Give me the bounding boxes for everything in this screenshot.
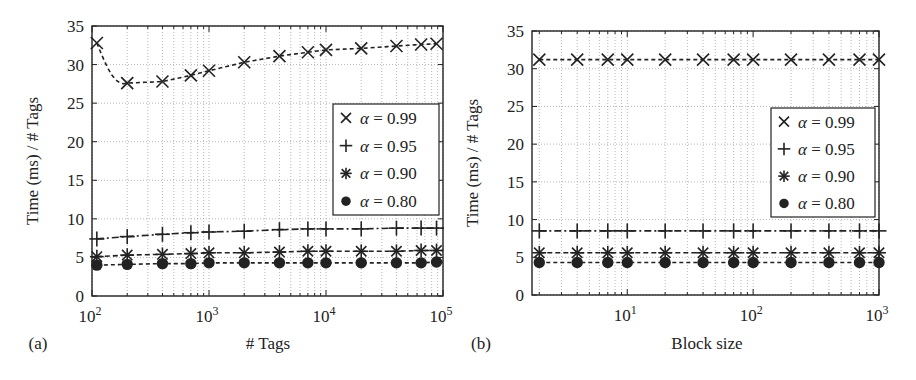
data-point xyxy=(122,259,133,270)
data-point xyxy=(414,244,428,258)
data-point xyxy=(320,257,331,268)
legend-marker-icon xyxy=(341,196,351,206)
data-point xyxy=(319,244,333,258)
figure: 05101520253035102103104105α = 0.99α = 0.… xyxy=(0,0,916,380)
x-tick-label: 102 xyxy=(740,303,763,325)
legend-label: α = 0.95 xyxy=(360,137,417,156)
data-point xyxy=(431,38,443,50)
y-tick-label: 0 xyxy=(516,286,525,305)
data-point xyxy=(431,256,442,267)
data-point xyxy=(746,223,761,238)
y-tick-label: 25 xyxy=(507,97,524,116)
y-axis-title: Time (ms) / # Tags xyxy=(463,99,482,227)
data-point xyxy=(202,224,217,239)
data-point xyxy=(602,257,613,268)
data-point xyxy=(391,257,402,268)
data-point xyxy=(185,258,196,269)
data-point xyxy=(319,221,334,236)
y-tick-label: 10 xyxy=(507,211,524,230)
x-tick-label: 105 xyxy=(430,304,453,326)
data-point xyxy=(390,244,404,258)
y-tick-label: 25 xyxy=(67,94,84,113)
y-tick-label: 0 xyxy=(76,287,85,306)
x-tick-labels: 101102103 xyxy=(614,303,889,325)
data-point xyxy=(157,258,168,269)
data-point xyxy=(272,222,287,237)
x-tick-label: 101 xyxy=(614,303,637,325)
data-point xyxy=(302,257,313,268)
x-axis-title: Block size xyxy=(671,334,742,353)
legend-label: α = 0.80 xyxy=(360,192,417,211)
x-tick-labels: 102103104105 xyxy=(79,304,453,326)
y-axis-title: Time (ms) / # Tags xyxy=(23,97,42,225)
legend-marker-icon xyxy=(779,199,789,209)
data-point xyxy=(785,257,796,268)
data-point xyxy=(570,223,585,238)
chart-canvas: 05101520253035102103104105α = 0.99α = 0.… xyxy=(0,0,916,380)
legend-label: α = 0.80 xyxy=(798,194,855,213)
data-point xyxy=(696,223,711,238)
legend-marker-icon xyxy=(778,170,790,182)
data-point xyxy=(726,223,741,238)
data-point xyxy=(823,257,834,268)
y-tick-label: 5 xyxy=(516,248,525,267)
data-point xyxy=(697,257,708,268)
y-tick-label: 10 xyxy=(67,210,84,229)
y-tick-label: 30 xyxy=(67,56,84,75)
data-point xyxy=(852,223,867,238)
data-point xyxy=(273,245,287,259)
legend-marker-icon xyxy=(340,168,352,180)
data-point xyxy=(600,223,615,238)
y-tick-label: 15 xyxy=(67,171,84,190)
y-tick-labels: 05101520253035 xyxy=(67,17,84,306)
data-point xyxy=(203,257,214,268)
data-point xyxy=(301,244,315,258)
data-point xyxy=(120,229,135,244)
y-tick-label: 35 xyxy=(507,22,524,41)
data-point xyxy=(274,257,285,268)
data-point xyxy=(415,257,426,268)
y-tick-label: 30 xyxy=(507,60,524,79)
panel-label: (a) xyxy=(29,334,48,353)
panel-b: 05101520253035101102103α = 0.99α = 0.95α… xyxy=(463,22,889,353)
data-point xyxy=(532,223,547,238)
legend-label: α = 0.99 xyxy=(360,109,417,128)
data-point xyxy=(356,257,367,268)
data-point xyxy=(429,221,444,236)
data-point xyxy=(237,224,252,239)
x-axis-title: # Tags xyxy=(246,334,290,353)
legend-label: α = 0.90 xyxy=(360,164,417,183)
x-tick-label: 103 xyxy=(866,303,889,325)
data-point xyxy=(534,257,545,268)
data-point xyxy=(784,223,799,238)
data-point xyxy=(571,257,582,268)
y-tick-labels: 05101520253035 xyxy=(507,22,524,305)
legend-label: α = 0.95 xyxy=(798,140,855,159)
x-tick-label: 104 xyxy=(313,304,336,326)
data-point xyxy=(854,257,865,268)
y-tick-label: 5 xyxy=(76,248,85,267)
data-point xyxy=(728,257,739,268)
legend-label: α = 0.99 xyxy=(798,113,855,132)
data-point xyxy=(658,223,673,238)
data-point xyxy=(300,221,315,236)
data-point xyxy=(239,257,250,268)
data-point xyxy=(354,244,368,258)
legend: α = 0.99α = 0.95α = 0.90α = 0.80 xyxy=(333,104,439,215)
y-tick-label: 20 xyxy=(507,135,524,154)
data-point xyxy=(91,259,102,270)
panel-label: (b) xyxy=(471,334,491,353)
y-tick-label: 35 xyxy=(67,17,84,36)
data-point xyxy=(747,257,758,268)
data-point xyxy=(155,227,170,242)
x-tick-label: 103 xyxy=(196,304,219,326)
series-line xyxy=(97,228,443,239)
data-point xyxy=(354,221,369,236)
data-point xyxy=(430,244,444,258)
panel-a: 05101520253035102103104105α = 0.99α = 0.… xyxy=(23,17,453,353)
data-point xyxy=(414,221,429,236)
data-point xyxy=(620,223,635,238)
y-tick-label: 20 xyxy=(67,133,84,152)
legend: α = 0.99α = 0.95α = 0.90α = 0.80 xyxy=(771,108,875,217)
data-point xyxy=(389,221,404,236)
